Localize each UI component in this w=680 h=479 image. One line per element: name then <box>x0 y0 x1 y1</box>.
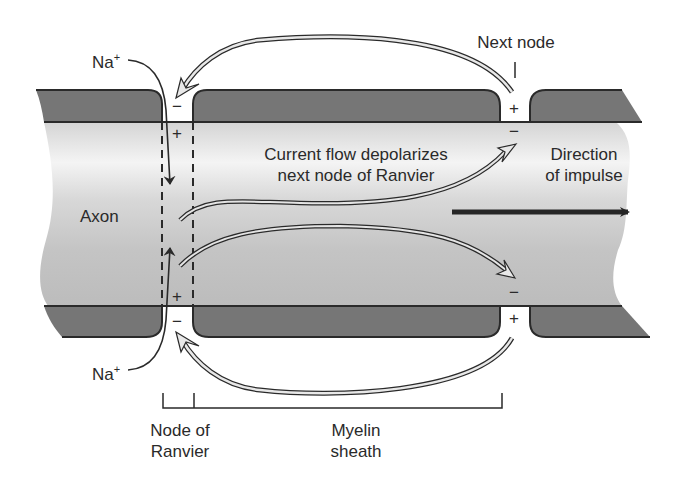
label-next-node: Next node <box>477 33 555 52</box>
charge-node-top-inside: + <box>172 124 182 143</box>
current-loop-bottom-outside <box>176 332 512 393</box>
charge-node-bottom-outside: − <box>172 312 182 331</box>
charge-next-bottom-outside: + <box>509 309 519 328</box>
label-myelin-sheath-1: Myelin <box>331 421 380 440</box>
charge-node-bottom-inside: + <box>172 287 182 306</box>
label-myelin-sheath-2: sheath <box>330 442 381 461</box>
label-na-bottom: Na+ <box>92 363 120 384</box>
label-direction-2: of impulse <box>545 166 622 185</box>
myelinated-axon-diagram: − + + − + − − + Na+ Na+ Next node Curren… <box>0 0 680 479</box>
label-na-top: Na+ <box>92 51 120 72</box>
charge-node-top-outside: − <box>172 97 182 116</box>
myelin-bottom-middle <box>193 306 500 337</box>
charge-next-top-outside: + <box>509 99 519 118</box>
myelin-bottom-right <box>530 306 650 337</box>
label-node-of-ranvier-2: Ranvier <box>151 442 210 461</box>
label-axon: Axon <box>80 207 119 226</box>
label-current-flow-1: Current flow depolarizes <box>264 145 447 164</box>
node-of-ranvier-bracket <box>163 393 194 408</box>
myelin-bottom-left <box>44 306 162 337</box>
myelin-top-right <box>530 90 642 122</box>
label-direction-1: Direction <box>550 145 617 164</box>
myelin-top-left <box>36 90 162 122</box>
charge-next-top-inside: − <box>509 122 519 141</box>
current-loop-top-outside <box>176 37 512 98</box>
myelin-top-middle <box>193 90 500 122</box>
charge-next-bottom-inside: − <box>509 283 519 302</box>
label-node-of-ranvier-1: Node of <box>150 421 210 440</box>
label-current-flow-2: next node of Ranvier <box>278 166 435 185</box>
